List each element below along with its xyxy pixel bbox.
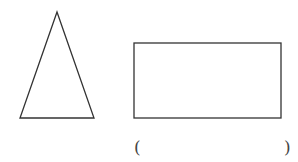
rectangle-shape xyxy=(134,43,281,118)
triangle-shape xyxy=(20,12,94,118)
open-paren: ( xyxy=(134,139,141,156)
answer-blank xyxy=(148,139,283,157)
shapes-figure xyxy=(0,0,298,162)
close-paren: ) xyxy=(284,139,291,156)
